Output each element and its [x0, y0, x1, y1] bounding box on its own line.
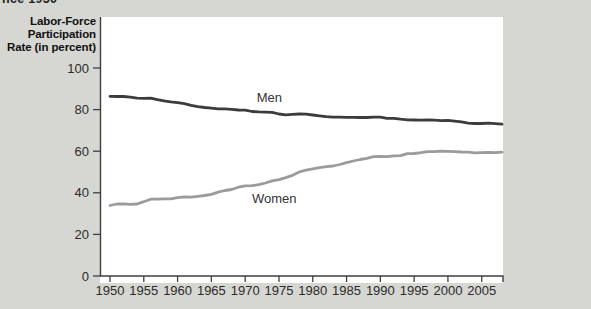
y-tick-label: 100 — [67, 61, 89, 76]
y-tick-label: 60 — [75, 144, 89, 159]
x-tick-label: 1970 — [231, 283, 260, 298]
x-tick-label: 1950 — [96, 283, 125, 298]
x-tick-label: 1980 — [298, 283, 327, 298]
x-tick-label: 1995 — [400, 283, 429, 298]
women-label: Women — [252, 191, 297, 206]
figure-canvas: nce 1950 Labor-Force Participation Rate … — [0, 0, 591, 309]
x-tick-label: 1985 — [332, 283, 361, 298]
y-tick-label: 0 — [82, 269, 89, 284]
x-tick-label: 1965 — [197, 283, 226, 298]
x-tick-label: 1955 — [129, 283, 158, 298]
x-tick-label: 1990 — [366, 283, 395, 298]
x-tick-label: 1975 — [265, 283, 294, 298]
x-tick-label: 1960 — [163, 283, 192, 298]
line-chart: 0204060801001950195519601965197019751980… — [0, 0, 591, 309]
y-tick-label: 40 — [75, 185, 89, 200]
x-tick-label: 2000 — [433, 283, 462, 298]
y-tick-label: 80 — [75, 102, 89, 117]
x-tick-label: 2005 — [467, 283, 496, 298]
y-tick-label: 20 — [75, 227, 89, 242]
men-label: Men — [257, 90, 282, 105]
